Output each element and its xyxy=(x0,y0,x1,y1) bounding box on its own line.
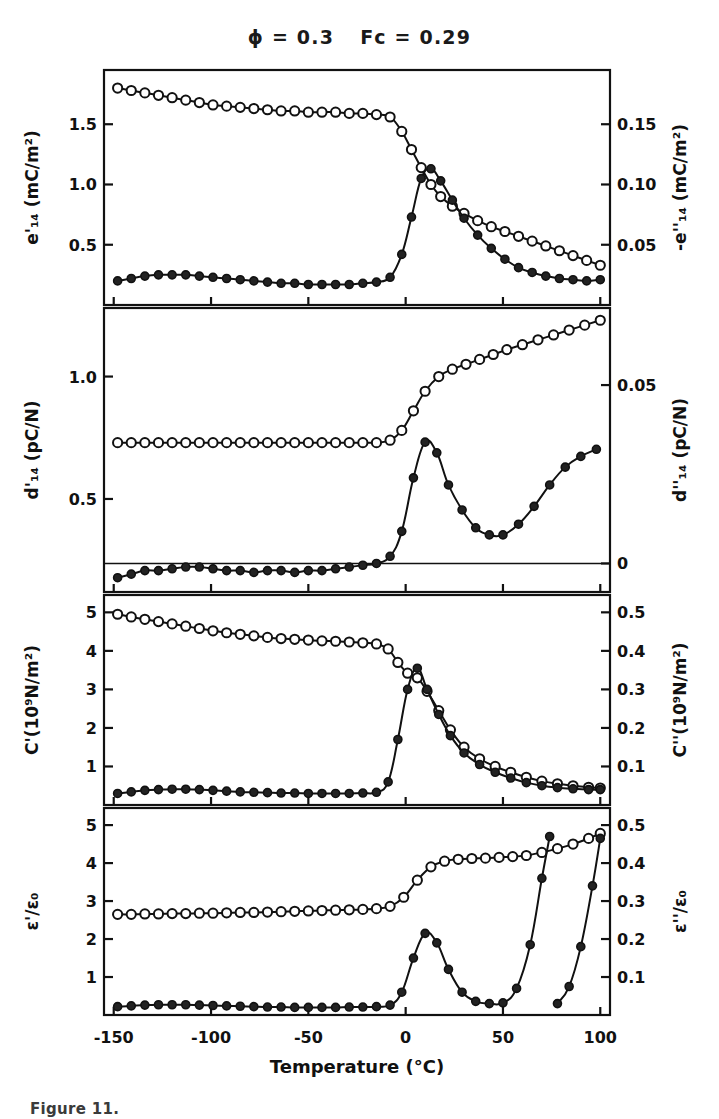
data-point-filled xyxy=(386,552,394,560)
data-point-open xyxy=(372,110,381,119)
data-point-filled xyxy=(263,789,271,797)
data-point-open xyxy=(236,438,245,447)
data-point-open xyxy=(140,438,149,447)
y-tick-label-left: 2 xyxy=(86,719,97,738)
data-point-filled xyxy=(263,1003,271,1011)
data-point-open xyxy=(263,907,272,916)
data-point-filled xyxy=(446,732,454,740)
y-tick-label-right: 0.5 xyxy=(617,603,645,622)
data-point-open xyxy=(426,180,435,189)
data-point-filled xyxy=(209,273,217,281)
data-point-filled xyxy=(291,279,299,287)
data-point-open xyxy=(263,438,272,447)
data-point-filled xyxy=(546,832,554,840)
data-point-filled xyxy=(223,274,231,282)
data-point-open xyxy=(304,906,313,915)
data-point-open xyxy=(399,893,408,902)
x-tick-label: 0 xyxy=(400,1028,411,1047)
data-point-open xyxy=(304,108,313,117)
data-point-filled xyxy=(127,788,135,796)
data-point-open xyxy=(208,438,217,447)
data-point-open xyxy=(140,88,149,97)
data-point-filled xyxy=(182,1001,190,1009)
data-point-filled xyxy=(236,788,244,796)
y-axis-title-left: e'₁₄ (mC/m²) xyxy=(22,130,42,245)
y-axis-title-right: d''₁₄ (pC/N) xyxy=(670,398,690,502)
data-point-filled xyxy=(332,281,340,289)
data-point-filled xyxy=(515,264,523,272)
data-point-open xyxy=(195,624,204,633)
data-point-filled xyxy=(168,1001,176,1009)
data-point-filled xyxy=(332,1003,340,1011)
data-point-filled xyxy=(345,563,353,571)
data-point-open xyxy=(236,908,245,917)
data-point-filled xyxy=(458,988,466,996)
data-point-filled xyxy=(345,789,353,797)
data-point-open xyxy=(385,902,394,911)
data-point-filled xyxy=(596,276,604,284)
data-point-filled xyxy=(553,1000,561,1008)
data-point-filled xyxy=(236,276,244,284)
series-line xyxy=(557,838,600,1003)
data-point-filled xyxy=(487,244,495,252)
data-point-filled xyxy=(223,567,231,575)
data-point-open xyxy=(195,438,204,447)
y-tick-label-left: 1 xyxy=(86,757,97,776)
data-point-open xyxy=(181,438,190,447)
data-point-filled xyxy=(127,1002,135,1010)
data-point-filled xyxy=(154,786,162,794)
data-point-open xyxy=(413,876,422,885)
data-point-open xyxy=(249,438,258,447)
data-point-open xyxy=(277,634,286,643)
data-point-filled xyxy=(141,1001,149,1009)
data-point-filled xyxy=(372,788,380,796)
data-point-open xyxy=(127,438,136,447)
data-point-filled xyxy=(263,278,271,286)
y-tick-label-left: 3 xyxy=(86,892,97,911)
figure-caption: Figure 11. xyxy=(30,1100,690,1119)
y-tick-label-right: 0.4 xyxy=(617,642,645,661)
data-point-filled xyxy=(577,943,585,951)
data-point-filled xyxy=(448,196,456,204)
data-point-open xyxy=(317,636,326,645)
data-point-filled xyxy=(437,177,445,185)
data-point-filled xyxy=(561,463,569,471)
data-point-open xyxy=(113,610,122,619)
data-point-filled xyxy=(209,786,217,794)
data-point-filled xyxy=(404,685,412,693)
data-point-open xyxy=(549,330,558,339)
data-point-filled xyxy=(318,789,326,797)
data-point-filled xyxy=(359,789,367,797)
data-point-filled xyxy=(154,567,162,575)
data-point-open xyxy=(372,639,381,648)
data-point-open xyxy=(317,906,326,915)
data-point-filled xyxy=(398,250,406,258)
data-point-filled xyxy=(209,565,217,573)
data-point-open xyxy=(345,438,354,447)
data-point-open xyxy=(127,86,136,95)
data-point-open xyxy=(154,617,163,626)
x-tick-label: -150 xyxy=(94,1028,134,1047)
data-point-open xyxy=(181,909,190,918)
data-point-open xyxy=(222,908,231,917)
y-tick-label-right: 0.1 xyxy=(617,968,645,987)
y-axis-title-right: C''(10⁹N/m²) xyxy=(670,642,690,757)
data-point-filled xyxy=(394,736,402,744)
data-point-open xyxy=(236,103,245,112)
data-point-filled xyxy=(141,786,149,794)
data-point-open xyxy=(436,192,445,201)
data-point-filled xyxy=(565,983,573,991)
data-point-filled xyxy=(433,939,441,947)
data-point-open xyxy=(140,909,149,918)
data-point-open xyxy=(331,108,340,117)
data-point-filled xyxy=(435,710,443,718)
data-point-open xyxy=(421,387,430,396)
y-axis-title-left: d'₁₄ (pC/N) xyxy=(22,401,42,500)
data-point-filled xyxy=(423,685,431,693)
data-point-open xyxy=(331,438,340,447)
data-point-filled xyxy=(474,231,482,239)
data-point-open xyxy=(249,104,258,113)
data-point-filled xyxy=(583,277,591,285)
data-point-open xyxy=(358,638,367,647)
data-point-filled xyxy=(236,1002,244,1010)
